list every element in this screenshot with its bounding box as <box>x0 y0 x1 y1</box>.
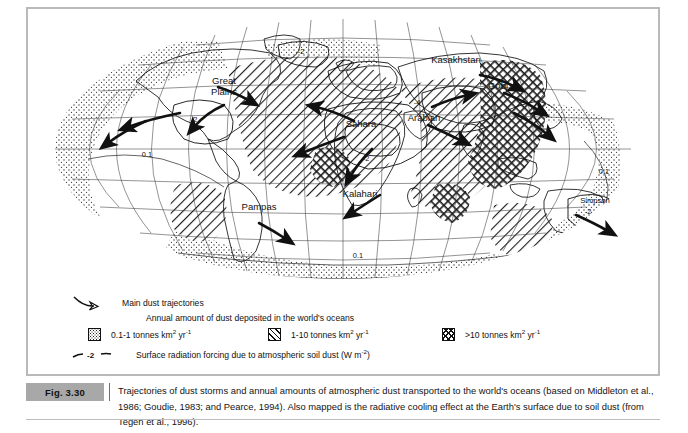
contour-label-1: 0.1 <box>353 251 363 260</box>
legend-row-radiation-forcing: -2 Surface radiation forcing due to atmo… <box>72 349 370 361</box>
world-map-svg: Great Plains Sahara Kasakhstan Gobi Arab… <box>28 9 658 294</box>
legend-deposition-heading: Annual amount of dust deposited in the w… <box>146 313 354 323</box>
legend-class-high: >10 tonnes km2 yr-1 <box>442 328 540 341</box>
caption-bottom-rule <box>26 419 660 420</box>
diagonal-hatch-swatch-icon <box>268 328 281 341</box>
contour-label-2: 0.1 <box>599 167 609 176</box>
region-label-kasakhstan: Kasakhstan <box>431 54 481 65</box>
figure-root: Great Plains Sahara Kasakhstan Gobi Arab… <box>0 0 688 433</box>
region-label-great-plains-line2: Plains <box>211 86 237 97</box>
contour-label-7: -2 <box>298 47 305 56</box>
contour-label-4: -2 <box>363 154 370 163</box>
stipple-swatch-icon <box>88 328 101 341</box>
legend-class-high-label: >10 tonnes km2 yr-1 <box>465 330 540 340</box>
cross-hatch-swatch-icon <box>442 328 455 341</box>
region-label-kalahari: Kalahari <box>343 188 378 199</box>
dust-trajectory-arrow-icon <box>72 295 102 311</box>
legend-row-trajectories: Main dust trajectories <box>72 295 204 311</box>
figure-frame: Great Plains Sahara Kasakhstan Gobi Arab… <box>26 7 660 376</box>
region-label-gobi: Gobi <box>488 80 508 91</box>
contour-label-0: 0.1 <box>142 150 152 159</box>
world-map-plate: Great Plains Sahara Kasakhstan Gobi Arab… <box>28 9 658 294</box>
contour-label-6: -4 <box>414 98 421 107</box>
region-label-arabian: Arabian <box>408 112 441 123</box>
region-label-pampas: Pampas <box>242 201 277 212</box>
legend-class-low-label: 0.1-1 tonnes km2 yr-1 <box>111 330 191 340</box>
legend-class-mid: 1-10 tonnes km2 yr-1 <box>268 328 369 341</box>
trajectory-simpson <box>576 215 608 231</box>
legend-radiation-forcing-label: Surface radiation forcing due to atmosph… <box>136 350 370 360</box>
figure-number-tag: Fig. 3.30 <box>26 383 104 401</box>
figure-caption-text: Trajectories of dust storms and annual a… <box>118 383 658 430</box>
legend-class-low: 0.1-1 tonnes km2 yr-1 <box>88 328 191 341</box>
contour-label-5: -2 <box>585 207 592 216</box>
legend-class-mid-label: 1-10 tonnes km2 yr-1 <box>291 330 369 340</box>
region-label-great-plains-line1: Great <box>212 75 236 86</box>
contour-label-3: -2 <box>191 115 198 124</box>
contour-sample-value: -2 <box>87 351 95 360</box>
caption-divider <box>109 383 110 401</box>
map-legend: Main dust trajectories Annual amount of … <box>28 291 658 376</box>
contour-line-icon: -2 <box>72 349 114 361</box>
region-label-sahara: Sahara <box>346 118 377 129</box>
legend-trajectories-label: Main dust trajectories <box>122 298 204 308</box>
region-label-simpson: Simpson <box>580 196 610 205</box>
